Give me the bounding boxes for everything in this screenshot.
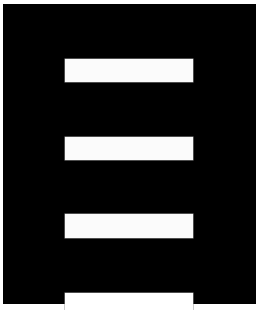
white-bar-3 bbox=[65, 214, 193, 238]
white-bar-1 bbox=[65, 59, 193, 82]
bottom-notch bbox=[65, 293, 193, 310]
white-bar-2 bbox=[65, 137, 193, 160]
graphic-canvas bbox=[0, 0, 263, 310]
